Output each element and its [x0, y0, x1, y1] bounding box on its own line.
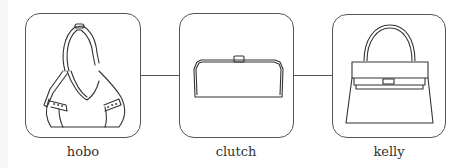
node-hobo[interactable]: [25, 13, 141, 138]
connector-clutch-kelly: [294, 75, 332, 76]
node-kelly[interactable]: [332, 14, 446, 138]
label-kelly: kelly: [329, 144, 449, 159]
clutch-bag-icon: [180, 14, 295, 139]
label-clutch: clutch: [176, 144, 296, 159]
label-hobo: hobo: [23, 144, 143, 159]
hobo-bag-icon: [26, 14, 142, 139]
connector-hobo-clutch: [141, 75, 179, 76]
node-clutch[interactable]: [179, 13, 294, 138]
kelly-bag-icon: [333, 15, 447, 139]
left-edge-strip: [0, 0, 8, 168]
